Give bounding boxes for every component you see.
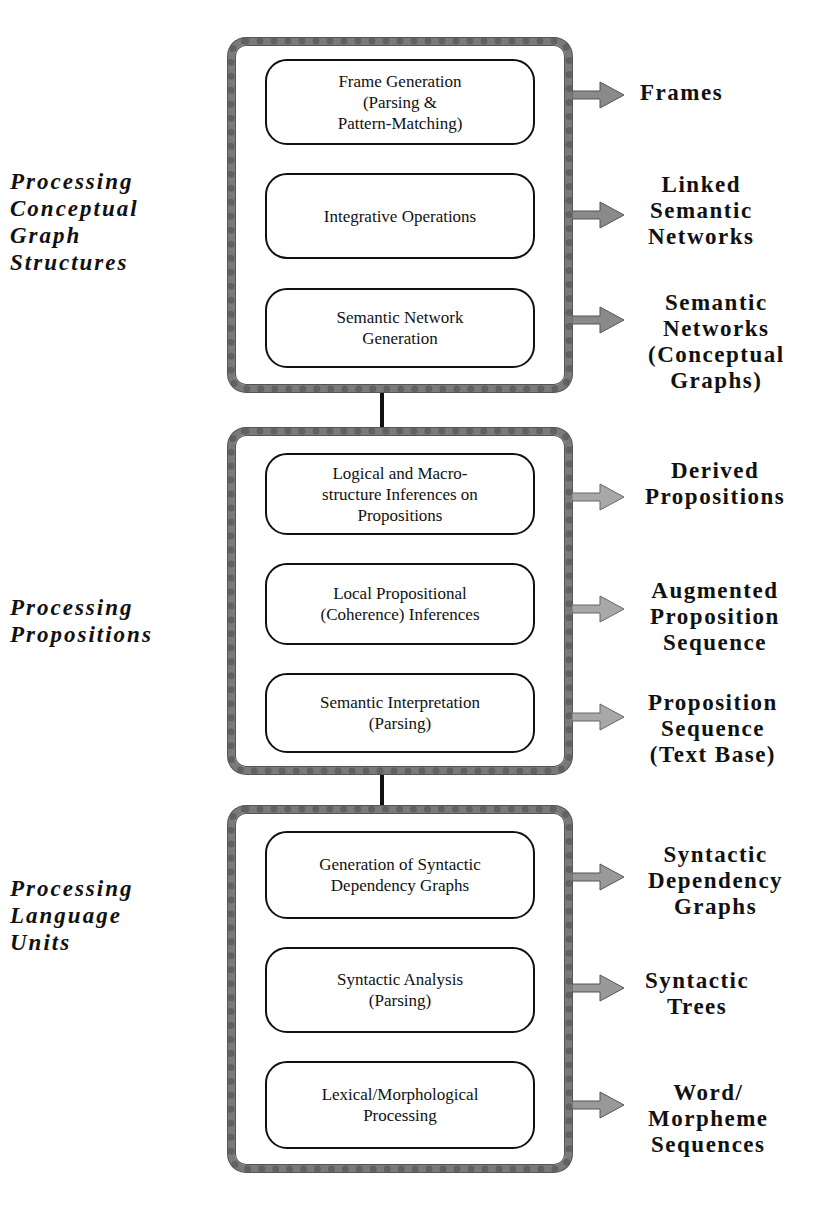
process-box-semantic-interpretation: Semantic Interpretation (Parsing) [265, 673, 535, 753]
arrow-right-icon [572, 702, 624, 732]
process-box-syntactic-dependency-generation: Generation of Syntactic Dependency Graph… [265, 831, 535, 919]
process-box-semantic-network-generation: Semantic Network Generation [265, 288, 535, 368]
process-box-integrative-operations: Integrative Operations [265, 173, 535, 259]
arrow-right-icon [572, 80, 624, 110]
arrow-right-icon [572, 1090, 624, 1120]
process-box-local-propositional-inferences: Local Propositional (Coherence) Inferenc… [265, 563, 535, 645]
arrow-right-icon [572, 200, 624, 230]
output-derived-propositions: Derived Propositions [645, 458, 785, 510]
group-label-propositions: Processing Propositions [10, 594, 153, 648]
output-syntactic-trees: Syntactic Trees [645, 968, 749, 1020]
output-proposition-sequence: Proposition Sequence (Text Base) [648, 690, 778, 768]
arrow-right-icon [572, 862, 624, 892]
output-semantic-networks: Semantic Networks (Conceptual Graphs) [648, 290, 785, 394]
process-box-lexical-morphological: Lexical/Morphological Processing [265, 1061, 535, 1149]
process-box-syntactic-analysis: Syntactic Analysis (Parsing) [265, 947, 535, 1033]
arrow-right-icon [572, 305, 624, 335]
process-box-logical-macrostructure-inferences: Logical and Macro- structure Inferences … [265, 453, 535, 535]
arrow-right-icon [572, 594, 624, 624]
output-linked-semantic-networks: Linked Semantic Networks [648, 172, 755, 250]
group-label-language-units: Processing Language Units [10, 875, 134, 956]
output-augmented-proposition-sequence: Augmented Proposition Sequence [650, 578, 780, 656]
output-frames: Frames [640, 80, 723, 106]
output-syntactic-dependency-graphs: Syntactic Dependency Graphs [648, 842, 783, 920]
arrow-right-icon [572, 482, 624, 512]
process-box-frame-generation: Frame Generation (Parsing & Pattern-Matc… [265, 59, 535, 145]
group-frame-language-units: Generation of Syntactic Dependency Graph… [228, 806, 572, 1172]
arrow-right-icon [572, 973, 624, 1003]
group-label-conceptual-graph: Processing Conceptual Graph Structures [10, 168, 139, 276]
output-word-morpheme-sequences: Word/ Morpheme Sequences [648, 1080, 769, 1158]
group-frame-conceptual-graph: Frame Generation (Parsing & Pattern-Matc… [228, 38, 572, 392]
group-frame-propositions: Logical and Macro- structure Inferences … [228, 428, 572, 774]
